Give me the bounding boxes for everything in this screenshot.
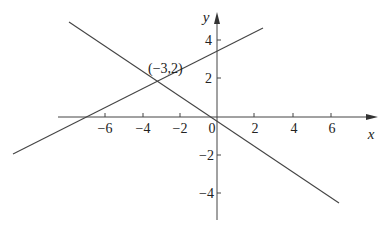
y-tick-label: 2 — [205, 71, 212, 86]
x-tick-label: −4 — [136, 121, 151, 136]
x-tick-label: 2 — [252, 121, 259, 136]
y-axis-arrow-icon — [214, 12, 220, 24]
x-tick-label: −2 — [173, 121, 188, 136]
y-tick-label: −2 — [199, 148, 214, 163]
y-tick-label: 4 — [205, 33, 212, 48]
x-axis: −6 −4 −2 2 4 6 x — [58, 113, 378, 142]
intersection-annotation: (−3,2) — [148, 61, 183, 77]
y-axis-label: y — [201, 9, 210, 25]
origin-label: 0 — [209, 121, 216, 136]
x-tick-label: 6 — [329, 121, 336, 136]
x-tick-label: 4 — [291, 121, 298, 136]
series-decreasing-line — [69, 22, 339, 203]
y-tick-label: −4 — [199, 186, 214, 201]
line-chart: −6 −4 −2 2 4 6 x 4 2 −2 −4 y 0 (−3,2) — [0, 0, 386, 232]
x-axis-label: x — [367, 126, 375, 142]
x-axis-arrow-icon — [366, 114, 378, 120]
x-tick-label: −6 — [98, 121, 113, 136]
y-axis: 4 2 −2 −4 y — [199, 9, 221, 220]
